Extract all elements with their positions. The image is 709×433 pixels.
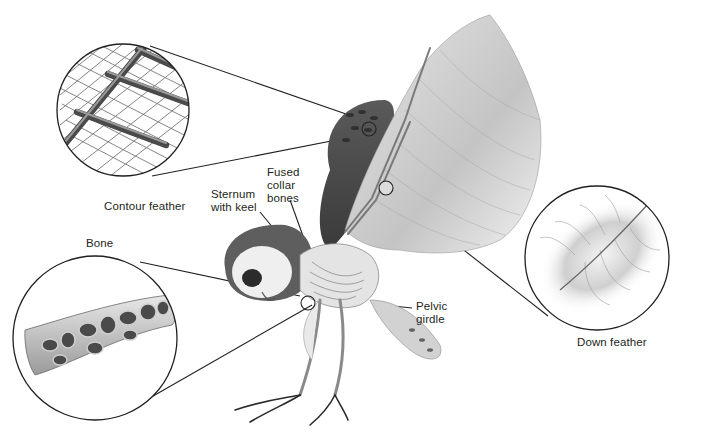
down-feather-inset: [519, 177, 686, 336]
contour-feather-inset: [55, 38, 200, 190]
owl-illustration: [224, 15, 540, 425]
label-sternum-with-keel: Sternum with keel: [211, 188, 257, 214]
bone-inset: [13, 256, 177, 420]
label-pelvic-girdle: Pelvic girdle: [416, 300, 447, 326]
owl-anatomy-diagram: Contour feather Sternum with keel Fused …: [0, 0, 709, 433]
label-bone: Bone: [86, 237, 113, 250]
label-contour-feather: Contour feather: [104, 200, 185, 213]
diagram-artwork: [0, 0, 709, 433]
label-down-feather: Down feather: [577, 336, 647, 349]
label-fused-collar-bones: Fused collar bones: [267, 166, 299, 205]
